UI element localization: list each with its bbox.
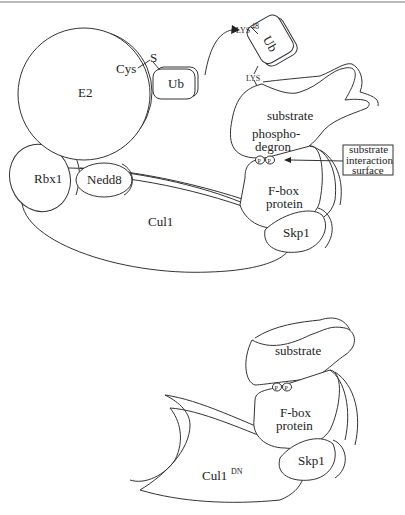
label-cys: Cys xyxy=(116,61,136,76)
label-cul1dn: Cul1 xyxy=(202,468,227,483)
label-substrate: substrate xyxy=(267,108,313,123)
label-lys48: LYS xyxy=(236,26,250,35)
label-e2: E2 xyxy=(78,85,92,100)
label-nedd8: Nedd8 xyxy=(87,172,122,187)
label-ub-attached: Ub xyxy=(168,76,184,91)
label-rbx1: Rbx1 xyxy=(34,171,62,186)
label-cul1: Cul1 xyxy=(148,214,173,229)
label-lys48-sup: 48 xyxy=(251,22,259,31)
label-s: S xyxy=(150,50,157,65)
label-skp1: Skp1 xyxy=(283,225,310,240)
label-bottom-skp1: Skp1 xyxy=(298,453,325,468)
label-phosphodegron-2: degron xyxy=(255,139,292,154)
label-bottom-fbox-2: protein xyxy=(276,418,313,433)
label-bottom-substrate: substrate xyxy=(275,343,321,358)
diagram-canvas: E2 Cys S Ub Ub LYS 48 LYS substrate phos… xyxy=(0,0,405,515)
label-cul1dn-sup: DN xyxy=(231,467,243,476)
label-lys: LYS xyxy=(246,74,260,83)
transfer-arrow xyxy=(205,30,232,75)
callout-line-3: surface xyxy=(352,164,384,176)
label-fbox-2: protein xyxy=(266,196,303,211)
